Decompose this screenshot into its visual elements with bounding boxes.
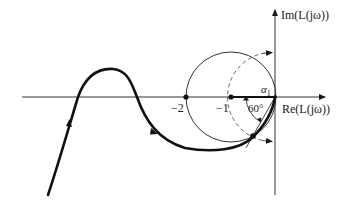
unit-circle-arrow-top	[262, 53, 272, 54]
alpha-subscript: 1	[267, 89, 271, 98]
unit-circle-arrow-bottom	[262, 141, 272, 142]
nyquist-curve	[48, 69, 275, 195]
angle-label: 60°	[248, 103, 263, 114]
alpha-label: α1	[261, 84, 271, 98]
point-minus-two	[183, 94, 188, 99]
tick-label-minus-one: −1	[216, 102, 229, 114]
critical-point-minus-one	[228, 94, 233, 99]
crossover-point	[250, 133, 256, 139]
tick-label-minus-two: −2	[171, 102, 184, 114]
real-axis-label: Re(L(jω))	[282, 103, 330, 115]
imaginary-axis-label: Im(L(jω))	[281, 9, 329, 21]
origin-point	[273, 95, 277, 99]
